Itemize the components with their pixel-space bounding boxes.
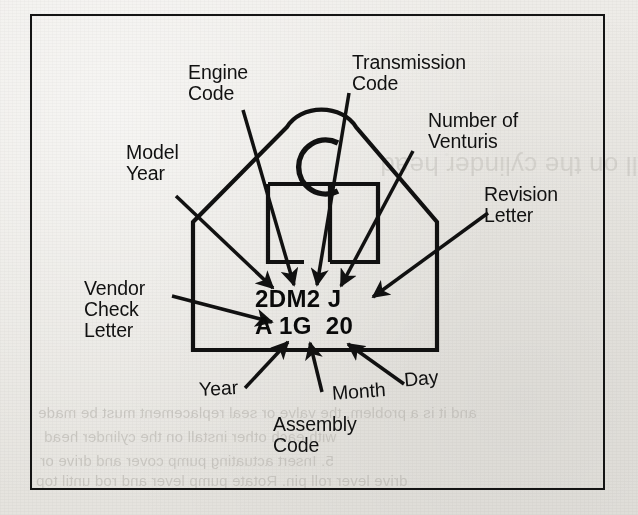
label-day: Day (403, 367, 439, 391)
label-month: Month (331, 379, 386, 404)
label-transmission-code: Transmission Code (352, 52, 466, 94)
label-year: Year (198, 377, 238, 400)
label-engine-code: Engine Code (188, 62, 248, 104)
label-number-of-venturis: Number of Venturis (428, 110, 518, 152)
label-revision-letter: Revision Letter (484, 184, 558, 226)
tag-code-line-1: 2DM2 J (255, 285, 341, 313)
tag-code-line-2: A 1G 20 (255, 312, 353, 340)
label-vendor-check-letter: Vendor Check Letter (84, 278, 145, 341)
label-model-year: Model Year (126, 142, 179, 184)
scanned-page: and it is a problem, the valve or seal r… (0, 0, 638, 515)
label-assembly-code: Assembly Code (273, 414, 357, 456)
